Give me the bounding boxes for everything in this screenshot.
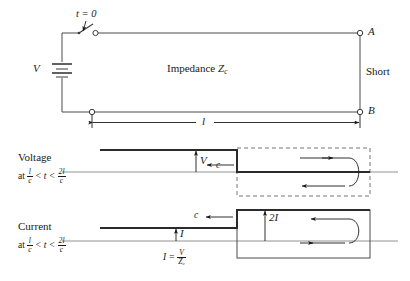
switch-symbol[interactable]	[78, 24, 98, 36]
voltage-plot-condition: at lc < t < 2lc	[18, 168, 66, 185]
switch-time-label: t = 0	[76, 9, 97, 20]
current-formula: I = VZc	[163, 249, 186, 266]
current-amplitude-label: I	[180, 228, 184, 239]
current-plot-title: Current	[18, 221, 52, 232]
figure-canvas: t = 0 V Impedance Zc A B Short l Voltage…	[0, 0, 410, 281]
current-speed-label: c	[194, 211, 198, 221]
battery-symbol	[52, 64, 72, 77]
terminal-node-input	[89, 109, 94, 114]
voltage-plot-title: Voltage	[18, 152, 51, 163]
terminal-label-a: A	[368, 26, 375, 37]
current-reflection-arrow	[300, 219, 359, 243]
length-label: l	[202, 116, 205, 127]
termination-label: Short	[366, 66, 390, 77]
current-region-box	[237, 210, 370, 258]
voltage-speed-label: c	[216, 161, 220, 171]
current-amplitude-label-2i: 2I	[269, 212, 278, 223]
line-impedance-label: Impedance Zc	[167, 63, 227, 76]
terminal-label-b: B	[368, 105, 375, 116]
voltage-plot-group	[62, 148, 398, 196]
voltage-amplitude-label: V	[200, 155, 207, 166]
source-voltage-label: V	[33, 63, 40, 74]
length-dimension	[92, 115, 360, 128]
current-plot-condition: at lc < t < 2lc	[18, 237, 66, 254]
voltage-waveform-trace	[100, 150, 370, 172]
current-plot-group	[62, 210, 398, 258]
terminal-node-b	[357, 109, 362, 114]
terminal-node-a	[357, 30, 362, 35]
